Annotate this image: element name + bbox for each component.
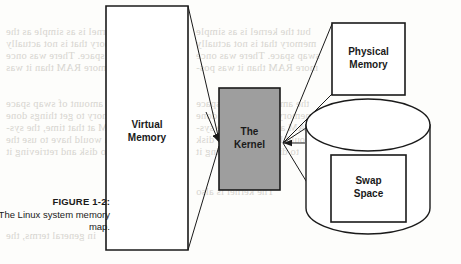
disk-cylinder-top — [306, 99, 430, 151]
virtual-memory-label-line1: Virtual — [132, 119, 163, 130]
swap-space-label-line2: Space — [354, 188, 384, 199]
node-disk-cylinder: Swap Space — [306, 99, 430, 234]
node-virtual-memory: Virtual Memory — [106, 6, 188, 250]
edge-virtual-memory-to-kernel-arrow — [206, 112, 219, 142]
edge-virtual-memory-to-kernel-top — [188, 6, 219, 140]
figure-number: FIGURE 1-2: — [52, 196, 110, 207]
physical-memory-label-line2: Memory — [349, 59, 388, 70]
kernel-label-line2: Kernel — [234, 139, 265, 150]
swap-space-label-line1: Swap — [355, 175, 381, 186]
kernel-label-line1: The — [241, 126, 259, 137]
edge-virtual-memory-to-kernel-bottom — [188, 146, 219, 250]
figure-caption-text: The Linux system memory map. — [0, 209, 110, 233]
node-kernel: The Kernel — [219, 88, 280, 190]
physical-memory-label-line1: Physical — [348, 46, 389, 57]
figure-page: the kernel is as simple as theto memory … — [0, 0, 461, 264]
figure-caption: FIGURE 1-2: The Linux system memory map. — [0, 196, 110, 234]
node-physical-memory: Physical Memory — [332, 23, 405, 95]
virtual-memory-label-line2: Memory — [128, 132, 167, 143]
